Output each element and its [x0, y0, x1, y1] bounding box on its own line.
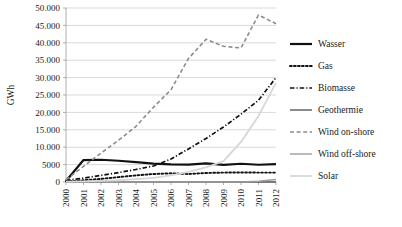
legend: WasserGasBiomasseGeothermieWind on-shore…	[290, 39, 376, 181]
y-tick-label: 15.000	[35, 125, 60, 135]
legend-item-wasser[interactable]: Wasser	[290, 39, 346, 49]
legend-label-wasser: Wasser	[318, 39, 346, 49]
chart-container: 0500010.00015.00020.00025.00030.00035.00…	[0, 0, 402, 227]
x-tick-label: 2002	[96, 189, 106, 207]
x-tick-label: 2006	[166, 189, 176, 208]
x-tick-label: 2009	[219, 189, 229, 208]
y-tick-label: 25.000	[35, 90, 60, 100]
legend-label-gas: Gas	[318, 61, 333, 71]
x-tick-label: 2007	[184, 189, 194, 208]
series-line-solar	[66, 83, 276, 182]
legend-label-geothermie: Geothermie	[318, 105, 363, 115]
y-tick-label: 20.000	[35, 108, 60, 118]
line-chart: 0500010.00015.00020.00025.00030.00035.00…	[0, 0, 402, 227]
y-tick-label: 45.000	[35, 21, 60, 31]
y-tick-label: 10.000	[35, 142, 60, 152]
x-tick-label: 2011	[254, 189, 264, 207]
y-tick-label: 35.000	[35, 55, 60, 65]
legend-label-wind-on-shore: Wind on-shore	[318, 127, 374, 137]
series-line-wind-on-shore	[66, 15, 276, 180]
legend-item-biomasse[interactable]: Biomasse	[290, 83, 355, 93]
series-line-wasser	[66, 160, 276, 181]
x-tick-label: 2000	[61, 189, 71, 208]
series-line-gas	[66, 172, 276, 181]
y-tick-label: 0	[56, 177, 61, 187]
x-tick-label: 2005	[149, 189, 159, 208]
legend-label-solar: Solar	[318, 171, 339, 181]
y-axis-ticks: 0500010.00015.00020.00025.00030.00035.00…	[35, 3, 66, 187]
legend-item-wind-on-shore[interactable]: Wind on-shore	[290, 127, 374, 137]
legend-item-solar[interactable]: Solar	[290, 171, 339, 181]
series-group	[66, 15, 276, 182]
y-tick-label: 40.000	[35, 38, 60, 48]
gridlines	[66, 8, 276, 165]
legend-label-wind-off-shore: Wind off-shore	[318, 149, 376, 159]
x-axis-ticks: 2000200120022003200420052006200720082009…	[61, 182, 281, 207]
y-axis-title: GWh	[6, 84, 16, 105]
legend-item-wind-off-shore[interactable]: Wind off-shore	[290, 149, 376, 159]
y-tick-label: 50.000	[35, 3, 60, 13]
x-tick-label: 2001	[79, 189, 89, 207]
legend-item-gas[interactable]: Gas	[290, 61, 333, 71]
x-tick-label: 2012	[271, 189, 281, 207]
x-tick-label: 2003	[114, 189, 124, 208]
y-tick-label: 5000	[42, 160, 61, 170]
legend-item-geothermie[interactable]: Geothermie	[290, 105, 363, 115]
x-tick-label: 2004	[131, 189, 141, 208]
y-tick-label: 30.000	[35, 73, 60, 83]
legend-label-biomasse: Biomasse	[318, 83, 355, 93]
x-tick-label: 2010	[236, 189, 246, 208]
x-tick-label: 2008	[201, 189, 211, 208]
